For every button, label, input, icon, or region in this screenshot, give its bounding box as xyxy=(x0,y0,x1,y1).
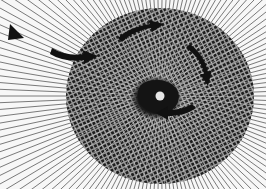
disc-dot xyxy=(73,23,77,27)
disc-dot xyxy=(161,186,165,189)
disc-dot xyxy=(61,85,65,89)
disc-dot xyxy=(257,37,261,41)
disc-dot xyxy=(244,165,248,169)
disc-dot xyxy=(84,172,88,176)
center-light-dot xyxy=(156,92,165,101)
disc-dot xyxy=(238,9,242,13)
moire-scene xyxy=(0,0,266,189)
disc-dot xyxy=(152,4,156,8)
disc-dot xyxy=(256,103,260,107)
disc-dot xyxy=(159,0,163,4)
disc-dot xyxy=(60,151,64,155)
disc-dot xyxy=(258,88,262,92)
disc-dot xyxy=(232,16,236,20)
disc-dot xyxy=(58,100,62,104)
disc-dot xyxy=(249,176,253,180)
disc-dot xyxy=(156,2,160,6)
disc-dot xyxy=(60,95,64,99)
moire-image xyxy=(0,0,266,189)
disc-dot xyxy=(210,0,214,3)
disc-dot xyxy=(78,179,82,183)
disc-dot xyxy=(253,2,257,6)
left-triangle-arrow-icon xyxy=(8,24,24,40)
disc-dot xyxy=(164,184,168,188)
disc-dot xyxy=(256,94,260,98)
disc-dot xyxy=(67,12,71,16)
disc-dot xyxy=(72,187,76,189)
